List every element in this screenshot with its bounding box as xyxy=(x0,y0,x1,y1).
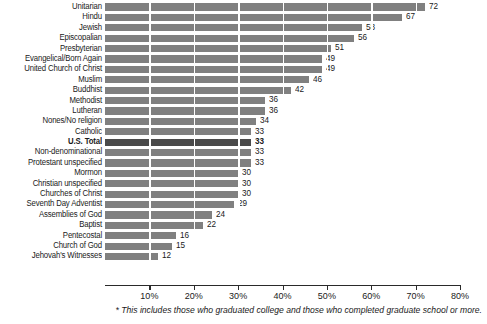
category-label: Presbyterian xyxy=(7,43,102,53)
x-axis-tick xyxy=(327,285,328,290)
bar-value-label: 22 xyxy=(207,219,216,229)
bar-value-label: 24 xyxy=(216,209,225,219)
bar-value-label: 15 xyxy=(176,240,185,250)
category-label: Episcopalian xyxy=(7,32,102,42)
chart-footnote: * This includes those who graduated coll… xyxy=(0,305,482,315)
bar xyxy=(105,107,265,114)
bar xyxy=(105,211,212,218)
category-label: U.S. Total xyxy=(7,136,102,146)
bar xyxy=(105,76,309,83)
bar xyxy=(105,24,362,31)
bar xyxy=(105,201,234,208)
gridline xyxy=(283,2,285,283)
bar-value-label: 56 xyxy=(358,32,367,42)
bar xyxy=(105,159,251,166)
bar-value-label: 36 xyxy=(269,94,278,104)
category-label: Pentecostal xyxy=(7,230,102,240)
category-label-column: UnitarianHinduJewishEpiscopalianPresbyte… xyxy=(0,2,102,283)
bar-value-label: 12 xyxy=(162,250,171,260)
bar xyxy=(105,118,256,125)
category-label: Jehovah's Witnesses xyxy=(7,250,102,260)
bar xyxy=(105,222,203,229)
x-axis-tick-label: 30% xyxy=(229,291,247,301)
category-label-row: Jehovah's Witnesses xyxy=(0,251,102,261)
x-axis-tick xyxy=(283,285,284,290)
category-label: Christian unspecified xyxy=(7,178,102,188)
category-label: Mormon xyxy=(7,167,102,177)
bar xyxy=(105,87,291,94)
category-label: Buddhist xyxy=(7,84,102,94)
category-label: Non-denominational xyxy=(7,146,102,156)
bar xyxy=(105,3,425,10)
bar xyxy=(105,139,251,146)
bar xyxy=(105,180,238,187)
bar xyxy=(105,128,251,135)
category-label: Jewish xyxy=(7,22,102,32)
category-label: Evangelical/Born Again xyxy=(7,53,102,63)
category-label: Assemblies of God xyxy=(7,209,102,219)
bar-value-label: 30 xyxy=(242,167,251,177)
bar-value-label: 34 xyxy=(260,115,269,125)
category-label: Unitarian xyxy=(7,1,102,11)
bar xyxy=(105,170,238,177)
bar xyxy=(105,66,322,73)
bar-value-label: 36 xyxy=(269,105,278,115)
bar-value-label: 33 xyxy=(255,157,264,167)
x-axis-tick xyxy=(149,285,150,290)
bar xyxy=(105,97,265,104)
x-axis-tick-label: 10% xyxy=(140,291,158,301)
x-axis-tick-label: 80% xyxy=(451,291,469,301)
x-axis-tick xyxy=(460,285,461,290)
bar-value-label: 46 xyxy=(313,74,322,84)
category-label: Nones/No religion xyxy=(7,115,102,125)
bar-value-label: 51 xyxy=(335,42,344,52)
gridline xyxy=(416,2,418,283)
category-label: Hindu xyxy=(7,11,102,21)
x-axis-tick-label: 70% xyxy=(407,291,425,301)
bar-value-label: 30 xyxy=(242,188,251,198)
gridline xyxy=(327,2,329,283)
gridline xyxy=(371,2,373,283)
plot-area: 7267585651494946423636343333333330303029… xyxy=(105,2,460,283)
bar xyxy=(105,243,172,250)
bar-value-label: 33 xyxy=(255,146,264,156)
category-label: Baptist xyxy=(7,219,102,229)
category-label: Churches of Christ xyxy=(7,188,102,198)
category-label: Church of God xyxy=(7,240,102,250)
bar xyxy=(105,35,354,42)
x-axis-tick-label: 20% xyxy=(185,291,203,301)
gridline xyxy=(460,2,462,283)
bar xyxy=(105,55,322,62)
bar xyxy=(105,45,331,52)
bar-value-label: 42 xyxy=(295,84,304,94)
bar-value-label: 33 xyxy=(255,136,264,146)
gridline xyxy=(149,2,151,283)
category-label: Catholic xyxy=(7,126,102,136)
bar-value-label: 72 xyxy=(429,1,438,11)
bar-chart: UnitarianHinduJewishEpiscopalianPresbyte… xyxy=(0,0,487,324)
x-axis-tick xyxy=(238,285,239,290)
category-label: Muslim xyxy=(7,74,102,84)
x-axis-tick-label: 40% xyxy=(273,291,291,301)
gridline xyxy=(238,2,240,283)
bar-value-label: 67 xyxy=(406,11,415,21)
x-axis-tick-label: 60% xyxy=(362,291,380,301)
bar xyxy=(105,191,238,198)
x-axis-tick xyxy=(194,285,195,290)
category-label: Seventh Day Adventist xyxy=(7,198,102,208)
category-label: Protestant unspecified xyxy=(7,157,102,167)
x-axis-tick-label: 50% xyxy=(318,291,336,301)
category-label: Methodist xyxy=(7,95,102,105)
x-axis-tick xyxy=(416,285,417,290)
bar-value-label: 16 xyxy=(180,230,189,240)
gridline xyxy=(194,2,196,283)
bar xyxy=(105,149,251,156)
bar-value-label: 33 xyxy=(255,126,264,136)
bar-value-label: 30 xyxy=(242,178,251,188)
category-label: United Church of Christ xyxy=(7,63,102,73)
bar xyxy=(105,232,176,239)
category-label: Lutheran xyxy=(7,105,102,115)
x-axis-tick xyxy=(371,285,372,290)
